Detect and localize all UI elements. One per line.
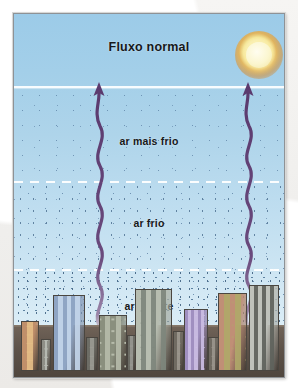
building-window-grid	[219, 294, 246, 370]
building-window-grid	[42, 340, 50, 370]
building	[173, 331, 185, 371]
city-skyline	[14, 297, 284, 377]
building-window-grid	[185, 310, 208, 370]
building	[41, 339, 51, 371]
building	[249, 285, 278, 371]
building-window-grid	[174, 332, 184, 370]
building-window-grid	[136, 290, 171, 370]
building	[99, 315, 127, 371]
building	[53, 295, 85, 371]
convection-diagram-figure: Fluxo normal ar mais frio ar frio ar que…	[13, 13, 285, 378]
building	[135, 289, 172, 371]
building	[21, 321, 39, 371]
building-window-grid	[100, 316, 126, 370]
building	[184, 309, 209, 371]
building-window-grid	[54, 296, 84, 370]
building	[218, 293, 247, 371]
building-window-grid	[250, 286, 277, 370]
building-window-grid	[128, 336, 135, 370]
convection-arrow-left	[94, 82, 105, 326]
building-window-grid	[87, 338, 97, 370]
building-window-grid	[209, 338, 217, 370]
building	[86, 337, 98, 371]
building-window-grid	[22, 322, 38, 370]
